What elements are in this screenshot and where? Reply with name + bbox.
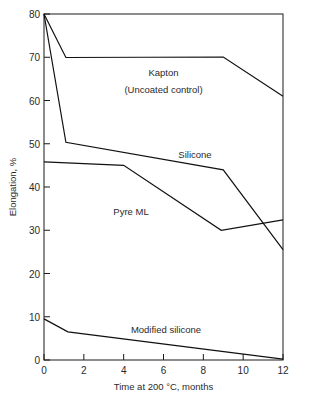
y-axis-tick-labels: 80 70 60 50 40 30 20 10 0 — [29, 9, 41, 366]
y-axis-ticks — [44, 14, 50, 360]
y-tick-label: 70 — [29, 52, 41, 63]
series-line-pyre-ml — [44, 162, 283, 230]
chart-canvas: 80 70 60 50 40 30 20 10 0 0 2 4 6 8 — [0, 0, 311, 400]
y-tick-label: 30 — [29, 225, 41, 236]
x-tick-label: 10 — [238, 365, 250, 376]
series-label-kapton-line1: Kapton — [148, 67, 178, 78]
series-label-modified-silicone: Modified silicone — [131, 324, 201, 335]
series-label-kapton-line2: (Uncoated control) — [124, 84, 202, 95]
y-tick-label: 20 — [29, 269, 41, 280]
plot-frame — [44, 14, 283, 360]
y-axis-title: Elongation, % — [7, 157, 18, 216]
x-tick-label: 4 — [121, 365, 127, 376]
x-axis-tick-labels: 0 2 4 6 8 10 12 — [41, 365, 289, 376]
y-tick-label: 50 — [29, 139, 41, 150]
series-line-silicone — [44, 14, 283, 250]
y-tick-label: 10 — [29, 312, 41, 323]
y-tick-label: 40 — [29, 182, 41, 193]
elongation-vs-time-chart: 80 70 60 50 40 30 20 10 0 0 2 4 6 8 — [0, 0, 311, 400]
y-tick-label: 60 — [29, 96, 41, 107]
series-label-pyre-ml: Pyre ML — [113, 206, 148, 217]
x-tick-label: 6 — [161, 365, 167, 376]
series-label-silicone: Silicone — [178, 149, 211, 160]
x-tick-label: 0 — [41, 365, 47, 376]
x-tick-label: 2 — [81, 365, 87, 376]
x-tick-label: 8 — [201, 365, 207, 376]
x-axis-title: Time at 200 °C, months — [114, 381, 214, 392]
y-tick-label: 0 — [34, 355, 40, 366]
y-tick-label: 80 — [29, 9, 41, 20]
x-tick-label: 12 — [277, 365, 289, 376]
